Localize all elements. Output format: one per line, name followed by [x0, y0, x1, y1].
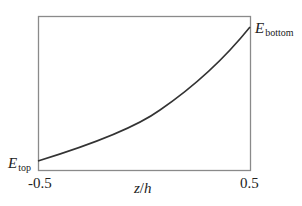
- plot-frame: [39, 17, 251, 171]
- e-bottom-subscript: bottom: [265, 27, 293, 38]
- e-top-symbol: E: [8, 155, 17, 171]
- x-axis-var-h: h: [144, 180, 152, 196]
- e-bottom-symbol: E: [255, 20, 264, 36]
- e-curve: [38, 27, 250, 161]
- x-tick-right: 0.5: [240, 176, 259, 191]
- e-bottom-label: Ebottom: [255, 21, 294, 38]
- x-axis-label: z/h: [134, 181, 152, 196]
- e-top-subscript: top: [18, 162, 31, 173]
- e-top-label: Etop: [8, 156, 31, 173]
- x-tick-left: -0.5: [28, 176, 52, 191]
